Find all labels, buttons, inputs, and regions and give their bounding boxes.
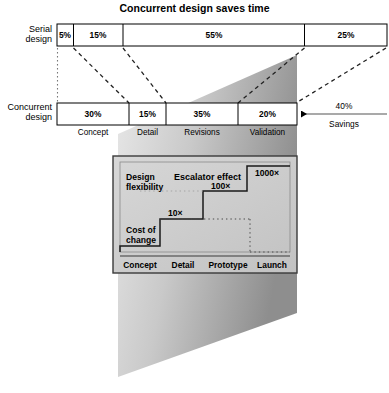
figure-container: Concurrent design saves time Serial desi…	[0, 0, 389, 393]
concurrent-phase-label-revisions: Revisions	[184, 128, 220, 137]
serial-segment-value-validation: 25%	[338, 30, 355, 40]
serial-segment-value-revisions: 55%	[206, 30, 223, 40]
escalator-axis-label-concept: Concept	[123, 260, 157, 270]
design-flexibility-label-line1: Design	[126, 172, 155, 182]
concurrent-segment-value-detail: 15%	[139, 109, 156, 119]
escalator-axis-label-launch: Launch	[257, 260, 287, 270]
page-title: Concurrent design saves time	[120, 2, 270, 14]
diagram-svg: Concurrent design saves time Serial desi…	[0, 0, 389, 393]
savings-callout: 40% Savings	[301, 101, 387, 129]
concurrent-design-label-line2: design	[25, 112, 52, 122]
leader-line-validation	[296, 48, 386, 103]
escalator-axis-label-prototype: Prototype	[208, 260, 247, 270]
escalator-axis-label-detail: Detail	[172, 260, 195, 270]
cost-of-change-label-line1: Cost of	[126, 225, 156, 235]
serial-design-label-line1: Serial	[29, 24, 52, 34]
multiplier-1000x: 1000×	[255, 168, 279, 178]
multiplier-100x: 100×	[211, 181, 230, 191]
multiplier-10x: 10×	[168, 208, 183, 218]
savings-label: Savings	[329, 119, 359, 129]
concurrent-phase-label-concept: Concept	[78, 128, 109, 137]
serial-design-bar: 5% 15% 55% 25%	[57, 24, 387, 46]
leader-line-detail	[123, 48, 166, 103]
concurrent-segment-value-validation: 20%	[259, 109, 276, 119]
concurrent-phase-label-detail: Detail	[137, 128, 158, 137]
serial-segment-value-concept: 5%	[59, 30, 72, 40]
serial-segment-value-detail: 15%	[90, 30, 107, 40]
concurrent-segment-value-concept: 30%	[85, 109, 102, 119]
concurrent-phase-label-validation: Validation	[250, 128, 286, 137]
concurrent-segment-value-revisions: 35%	[194, 109, 211, 119]
cost-of-change-label-line2: change	[126, 235, 156, 245]
design-flexibility-label-line2: flexibility	[126, 182, 163, 192]
serial-design-label-line2: design	[25, 34, 52, 44]
escalator-effect-title: Escalator effect	[174, 172, 241, 182]
escalator-effect-panel: Design flexibility Escalator effect Cost…	[113, 156, 297, 273]
leader-line-concept	[74, 48, 130, 103]
concurrent-design-label-line1: Concurrent	[7, 102, 52, 112]
savings-value: 40%	[336, 101, 353, 111]
